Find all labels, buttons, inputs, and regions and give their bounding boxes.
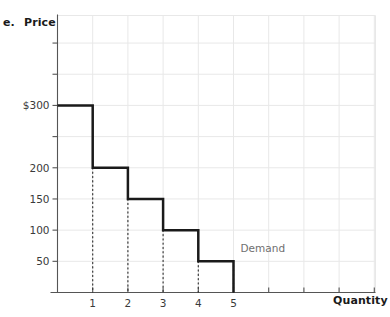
y-tick-label: 150 [29, 193, 49, 205]
x-tick-label: 1 [89, 297, 96, 309]
demand-series-label: Demand [241, 242, 286, 254]
axis-lines [51, 15, 376, 293]
grid-lines [58, 16, 376, 293]
chart-plot-area [0, 0, 390, 317]
demand-curve-chart: e. Price Quantity Demand 50100150200$300… [0, 0, 390, 317]
y-tick-label: 50 [36, 255, 49, 267]
x-tick-label: 3 [160, 297, 167, 309]
y-tick-label: 100 [29, 224, 49, 236]
x-tick-label: 2 [125, 297, 132, 309]
panel-letter: e. [3, 16, 15, 29]
x-tick-label: 4 [195, 297, 202, 309]
y-tick-label: 200 [29, 162, 49, 174]
x-axis-title: Quantity [333, 294, 388, 307]
y-tick-label: $300 [23, 99, 50, 111]
x-tick-label: 5 [230, 297, 237, 309]
y-axis-title: Price [24, 16, 56, 29]
